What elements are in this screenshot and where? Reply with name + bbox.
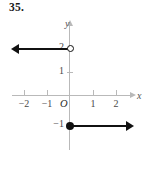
origin-label: O — [60, 98, 68, 109]
x-axis-arrow-icon — [130, 92, 136, 98]
x-tick-mark — [93, 90, 94, 96]
y-tick-label-2: 2 — [44, 41, 64, 52]
x-tick-mark — [47, 90, 48, 96]
y-axis-label: y — [65, 18, 69, 29]
upper-branch-arrow-icon — [11, 44, 19, 54]
x-axis-line — [12, 95, 132, 96]
y-tick-label-1: 1 — [44, 65, 64, 76]
x-tick-label-1: 1 — [83, 98, 103, 109]
open-endpoint-marker — [67, 45, 74, 52]
y-tick-label-neg1: −1 — [41, 118, 64, 129]
x-tick-label-2: 2 — [106, 98, 126, 109]
graph-figure: 35. x y −2 −1 1 2 O 2 1 −1 — [0, 0, 147, 188]
lower-branch-arrow-icon — [126, 121, 134, 131]
x-tick-mark — [24, 90, 25, 96]
problem-number: 35. — [9, 1, 24, 13]
x-tick-mark — [116, 90, 117, 96]
closed-endpoint-marker — [66, 122, 74, 130]
y-axis-line — [69, 25, 70, 150]
y-tick-mark — [67, 72, 73, 73]
x-tick-label-neg2: −2 — [14, 98, 34, 109]
x-axis-label: x — [137, 90, 141, 101]
lower-branch-ray — [70, 125, 128, 128]
x-tick-label-neg1: −1 — [37, 98, 57, 109]
upper-branch-ray — [17, 48, 70, 51]
